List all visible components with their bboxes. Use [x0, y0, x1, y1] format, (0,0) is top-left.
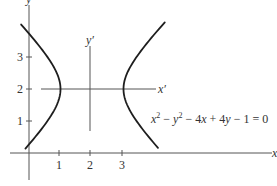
x-axis-label: x [271, 146, 277, 160]
eq-plus-4: + 4 [207, 112, 226, 126]
x-tick-label-2: 2 [87, 158, 93, 172]
y-prime-axis-label: y′ [85, 33, 94, 47]
eq-minus-1: − [160, 112, 173, 126]
y-tick-label-2: 2 [17, 82, 23, 96]
y-tick-label-1: 1 [17, 114, 23, 128]
eq-minus-1-equals-0: − 1 = 0 [231, 112, 269, 126]
hyperbola-diagram: 1 2 3 1 2 3 y x x′ y′ x2 − y2 − 4x + 4y … [0, 0, 277, 186]
y-tick-label-3: 3 [17, 50, 23, 64]
x-tick-label-1: 1 [56, 158, 62, 172]
x-tick-label-3: 3 [119, 158, 125, 172]
x-prime-axis-label: x′ [157, 82, 166, 96]
eq-minus-4: − 4 [182, 112, 201, 126]
hyperbola-left-branch [21, 25, 60, 149]
equation-label: x2 − y2 − 4x + 4y − 1 = 0 [150, 111, 268, 126]
y-axis-label: y [25, 0, 32, 6]
